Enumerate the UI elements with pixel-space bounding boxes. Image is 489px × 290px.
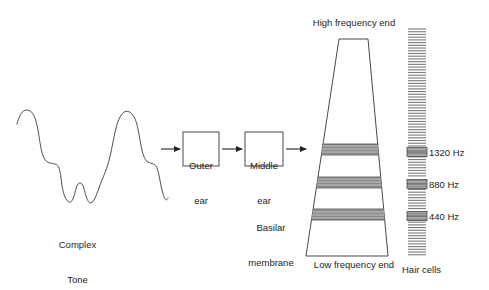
middle-ear-label-line2: ear: [245, 195, 283, 207]
middle-ear-label-line1: Middle: [245, 160, 283, 172]
complex-tone-caption-line2: Tone: [0, 274, 155, 286]
frequency-label-1320hz: 1320 Hz: [429, 147, 464, 158]
waveform-path: [17, 110, 168, 203]
low-frequency-end-label: Low frequency end: [288, 259, 420, 271]
basilar-membrane-label-line1: Basilar: [240, 222, 302, 234]
frequency-label-880hz: 880 Hz: [429, 179, 459, 190]
basilar-band-440hz: [300, 209, 396, 220]
basilar-membrane-shape: [300, 39, 396, 256]
basilar-band-1320hz: [300, 144, 396, 155]
basilar-membrane-label-line2: membrane: [240, 257, 302, 269]
outer-ear-label: Outer ear: [183, 137, 219, 218]
outer-ear-label-line1: Outer: [183, 160, 219, 172]
middle-ear-label: Middle ear: [245, 137, 283, 218]
complex-tone-waveform: [17, 110, 168, 203]
hair-cells-label: Hair cells: [402, 264, 464, 276]
complex-tone-caption: Complex Tone (440, 880,1320-Hz component…: [0, 216, 155, 290]
frequency-label-440hz: 440 Hz: [429, 211, 459, 222]
complex-tone-caption-line1: Complex: [0, 239, 155, 251]
hair-cells-column: [407, 29, 427, 255]
outer-ear-label-line2: ear: [183, 195, 219, 207]
high-frequency-end-label: High frequency end: [288, 17, 420, 29]
